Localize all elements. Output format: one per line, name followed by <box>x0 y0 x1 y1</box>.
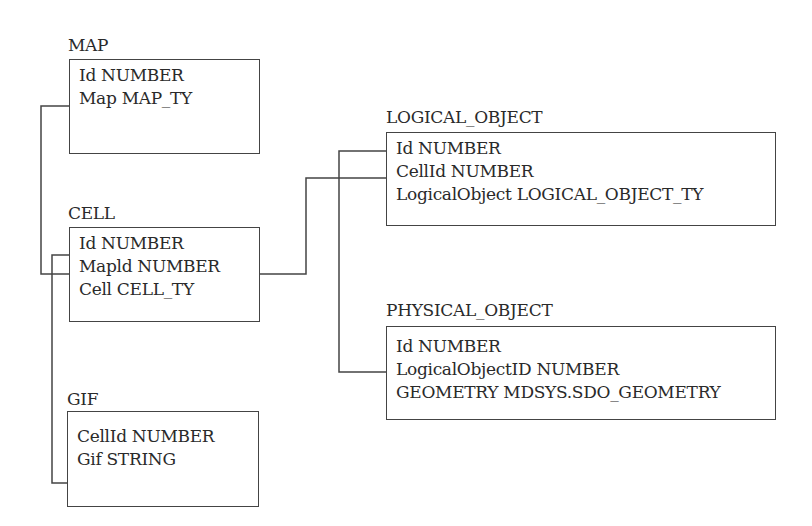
column-row: LogicalObjectID NUMBER <box>396 358 721 381</box>
map-cell-connector <box>41 106 69 274</box>
table-title-physical-object: PHYSICAL_OBJECT <box>386 300 552 320</box>
column-row: GEOMETRY MDSYS.SDO_GEOMETRY <box>396 381 721 404</box>
logical-physical-connector <box>339 151 386 372</box>
table-title-gif: GIF <box>67 389 98 409</box>
column-row: Id NUMBER <box>396 137 703 160</box>
cell-logical-object-connector <box>259 178 386 274</box>
table-title-cell: CELL <box>68 203 115 223</box>
column-row: Cell CELL_TY <box>79 278 220 301</box>
column-row: Id NUMBER <box>79 64 192 87</box>
column-row: Map MAP_TY <box>79 87 192 110</box>
column-row: Id NUMBER <box>396 335 721 358</box>
column-row: Gif STRING <box>77 448 214 471</box>
table-gif: CellId NUMBER Gif STRING <box>67 411 259 507</box>
table-cell: Id NUMBER Mapld NUMBER Cell CELL_TY <box>69 227 260 322</box>
table-logical-object: Id NUMBER CellId NUMBER LogicalObject LO… <box>386 132 776 226</box>
table-title-logical-object: LOGICAL_OBJECT <box>386 107 542 127</box>
column-row: CellId NUMBER <box>77 425 214 448</box>
column-row: LogicalObject LOGICAL_OBJECT_TY <box>396 183 703 206</box>
column-row: Mapld NUMBER <box>79 255 220 278</box>
table-map: Id NUMBER Map MAP_TY <box>69 59 260 154</box>
table-title-map: MAP <box>68 35 108 55</box>
column-row: CellId NUMBER <box>396 160 703 183</box>
table-physical-object: Id NUMBER LogicalObjectID NUMBER GEOMETR… <box>386 326 776 420</box>
column-row: Id NUMBER <box>79 232 220 255</box>
